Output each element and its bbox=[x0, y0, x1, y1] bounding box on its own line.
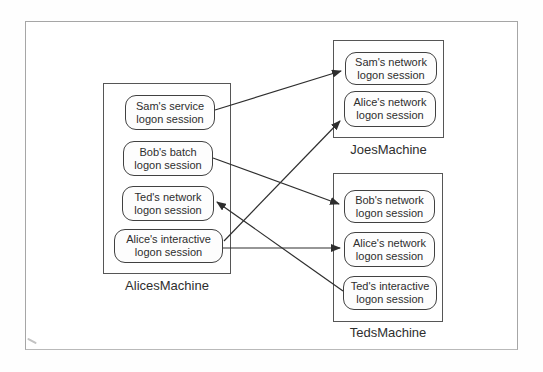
session-label-line: logon session bbox=[136, 113, 203, 126]
session-label-line: Alice's interactive bbox=[126, 233, 211, 246]
session-ted-network: Ted's network logon session bbox=[122, 186, 214, 221]
session-sam-service: Sam's service logon session bbox=[125, 95, 215, 130]
session-label-line: Bob's batch bbox=[139, 146, 196, 159]
session-label-line: Bob's network bbox=[355, 194, 424, 207]
session-label-line: logon session bbox=[356, 207, 423, 220]
machine-label-tedsmachine: TedsMachine bbox=[333, 325, 443, 340]
session-sam-network: Sam's network logon session bbox=[345, 52, 437, 85]
session-label-line: logon session bbox=[134, 159, 201, 172]
session-label-line: logon session bbox=[356, 250, 423, 263]
diagram-canvas: Sam's service logon session Bob's batch … bbox=[0, 0, 543, 372]
session-alice-network-joes: Alice's network logon session bbox=[344, 91, 436, 127]
session-ted-interactive: Ted's interactive logon session bbox=[343, 276, 437, 310]
session-label-line: Ted's network bbox=[135, 191, 202, 204]
session-bob-batch: Bob's batch logon session bbox=[123, 141, 213, 176]
session-label-line: logon session bbox=[356, 293, 423, 306]
session-alice-interactive: Alice's interactive logon session bbox=[114, 229, 223, 263]
session-label-line: logon session bbox=[357, 69, 424, 82]
machine-label-alicesmachine: AlicesMachine bbox=[103, 278, 231, 293]
session-label-line: logon session bbox=[135, 246, 202, 259]
session-bob-network: Bob's network logon session bbox=[344, 190, 435, 223]
session-label-line: Alice's network bbox=[353, 96, 426, 109]
machine-label-joesmachine: JoesMachine bbox=[333, 142, 444, 157]
session-label-line: logon session bbox=[356, 109, 423, 122]
session-label-line: Ted's interactive bbox=[351, 280, 430, 293]
session-label-line: Sam's network bbox=[355, 56, 427, 69]
session-label-line: Alice's network bbox=[353, 237, 426, 250]
outer-frame bbox=[25, 21, 518, 350]
session-alice-network-teds: Alice's network logon session bbox=[344, 232, 435, 267]
session-label-line: logon session bbox=[134, 204, 201, 217]
session-label-line: Sam's service bbox=[136, 100, 204, 113]
